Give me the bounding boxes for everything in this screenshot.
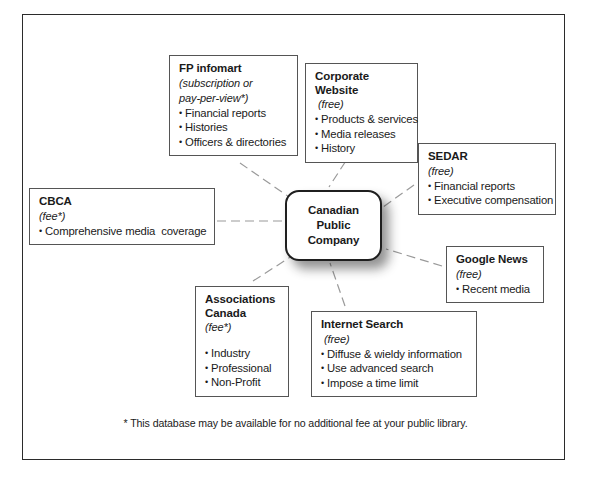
node-item-list: Industry Professional Non-Profit bbox=[205, 346, 281, 390]
node-title: Corporate Website bbox=[315, 70, 410, 97]
node-item-list: Comprehensive media coverage bbox=[39, 224, 207, 239]
list-item: Officers & directories bbox=[179, 135, 290, 150]
node-corporate-website[interactable]: Corporate Website (free) Products & serv… bbox=[305, 63, 418, 163]
node-subtitle: (free) bbox=[315, 97, 410, 112]
node-subtitle: (fee*) bbox=[205, 320, 281, 335]
footnote-text: * This database may be available for no … bbox=[0, 417, 591, 429]
list-item: Financial reports bbox=[428, 179, 548, 194]
list-item: Non-Profit bbox=[205, 375, 281, 390]
node-subtitle: (free) bbox=[321, 332, 469, 347]
node-cbca[interactable]: CBCA (fee*) Comprehensive media coverage bbox=[29, 188, 215, 245]
center-node-line: Canadian bbox=[308, 203, 359, 218]
node-subtitle: (free) bbox=[456, 267, 536, 282]
node-item-list: Financial reports Executive compensation bbox=[428, 179, 548, 208]
list-item: Professional bbox=[205, 361, 281, 376]
node-subtitle: (fee*) bbox=[39, 209, 207, 224]
node-subtitle: (free) bbox=[428, 164, 548, 179]
node-title: CBCA bbox=[39, 195, 207, 209]
node-title: Google News bbox=[456, 253, 536, 267]
spacer bbox=[205, 335, 281, 346]
list-item: Media releases bbox=[315, 127, 410, 142]
node-title: Internet Search bbox=[321, 318, 469, 332]
node-title: FP infomart bbox=[179, 62, 290, 76]
list-item: Recent media bbox=[456, 282, 536, 297]
node-title: SEDAR bbox=[428, 150, 548, 164]
list-item: Executive compensation bbox=[428, 193, 548, 208]
list-item: Products & services bbox=[315, 112, 410, 127]
list-item: Histories bbox=[179, 120, 290, 135]
list-item: Impose a time limit bbox=[321, 376, 469, 391]
list-item: Industry bbox=[205, 346, 281, 361]
node-internet-search[interactable]: Internet Search (free) Diffuse & wieldy … bbox=[311, 311, 477, 397]
node-fp-infomart[interactable]: FP infomart (subscription or pay-per-vie… bbox=[169, 55, 298, 156]
node-google-news[interactable]: Google News (free) Recent media bbox=[446, 246, 544, 303]
center-node-canadian-public-company[interactable]: Canadian Public Company bbox=[285, 190, 382, 261]
node-subtitle: (subscription or bbox=[179, 76, 290, 91]
node-associations-canada[interactable]: Associations Canada (fee*) Industry Prof… bbox=[195, 286, 289, 397]
node-subtitle-line2: pay-per-view*) bbox=[179, 91, 290, 106]
center-node-line: Company bbox=[308, 233, 360, 248]
center-node-line: Public bbox=[317, 218, 351, 233]
list-item: Financial reports bbox=[179, 106, 290, 121]
list-item: Diffuse & wieldy information bbox=[321, 347, 469, 362]
node-item-list: Diffuse & wieldy information Use advance… bbox=[321, 347, 469, 391]
list-item: Use advanced search bbox=[321, 361, 469, 376]
list-item: Comprehensive media coverage bbox=[39, 224, 207, 239]
list-item: History bbox=[315, 141, 410, 156]
node-item-list: Recent media bbox=[456, 282, 536, 297]
node-sedar[interactable]: SEDAR (free) Financial reports Executive… bbox=[418, 143, 556, 215]
diagram-canvas: FP infomart (subscription or pay-per-vie… bbox=[0, 0, 591, 477]
node-item-list: Products & services Media releases Histo… bbox=[315, 112, 410, 156]
node-item-list: Financial reports Histories Officers & d… bbox=[179, 106, 290, 150]
node-title: Associations Canada bbox=[205, 293, 281, 320]
